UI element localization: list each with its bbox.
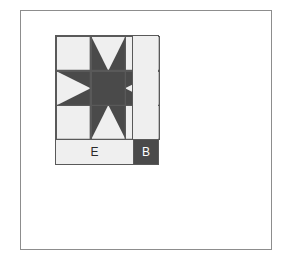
flying-geese-right-shape bbox=[56, 71, 91, 106]
flying-geese-up-shape bbox=[91, 105, 126, 140]
patch-bottom-left bbox=[56, 105, 91, 140]
right-sashing-strip bbox=[132, 36, 158, 140]
sashing-strip-e: E bbox=[56, 140, 133, 164]
plain-square-dark-shape bbox=[91, 71, 126, 106]
flying-geese-down-shape bbox=[91, 36, 126, 71]
figure-frame: E B bbox=[20, 10, 272, 250]
patch-center bbox=[91, 71, 126, 106]
corner-square-b-label: B bbox=[142, 146, 150, 158]
corner-square-b: B bbox=[133, 140, 158, 164]
patch-top-center bbox=[91, 36, 126, 71]
figure-canvas: E B bbox=[0, 0, 289, 265]
plain-square-light-shape bbox=[56, 105, 91, 140]
sashing-strip-e-label: E bbox=[90, 146, 98, 158]
quilt-block bbox=[55, 35, 159, 139]
patch-middle-left bbox=[56, 71, 91, 106]
plain-square-light-shape bbox=[56, 36, 91, 71]
bottom-sashing-row: E B bbox=[55, 139, 159, 165]
patch-top-left bbox=[56, 36, 91, 71]
patch-bottom-center bbox=[91, 105, 126, 140]
